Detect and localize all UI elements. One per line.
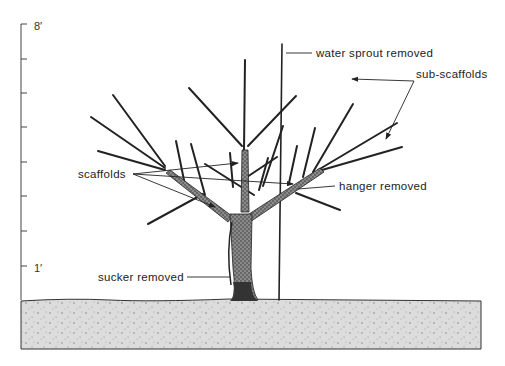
scale-top-label: 8′ — [34, 20, 42, 32]
height-scale: 8′ 1′ — [21, 20, 42, 300]
annotations — [133, 53, 414, 277]
tree-pruning-diagram: 8′ 1′ — [0, 0, 505, 366]
sub-scaffolds-label: sub-scaffolds — [416, 68, 487, 80]
hanger-label: hanger removed — [339, 180, 427, 192]
ground — [21, 299, 481, 349]
sucker-label: sucker removed — [98, 271, 184, 283]
trunk-and-scaffolds — [166, 150, 324, 301]
scaffolds-label: scaffolds — [78, 168, 126, 180]
water-sprout-label: water sprout removed — [315, 47, 433, 59]
scale-bottom-label: 1′ — [34, 262, 42, 274]
